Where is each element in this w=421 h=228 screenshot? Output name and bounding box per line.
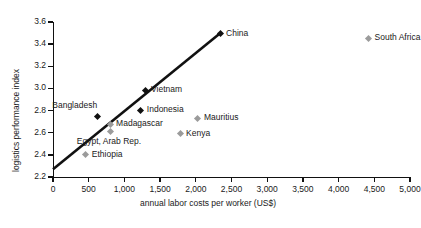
data-point-label: Egypt, Arab Rep. (77, 136, 141, 146)
data-point-label: South Africa (375, 32, 421, 42)
data-point-label: Kenya (186, 128, 210, 138)
data-point-label: Bangladesh (52, 100, 97, 110)
data-point-label: Ethiopia (92, 149, 123, 159)
data-point-label: Madagascar (116, 118, 163, 128)
data-point-label: Indonesia (147, 104, 184, 114)
data-point-label: Vietnam (151, 84, 182, 94)
logistics-performance-scatter-chart: logistics performance index annual labor… (0, 0, 421, 228)
data-point-label: China (226, 28, 248, 38)
data-point-label: Mauritius (204, 112, 238, 122)
